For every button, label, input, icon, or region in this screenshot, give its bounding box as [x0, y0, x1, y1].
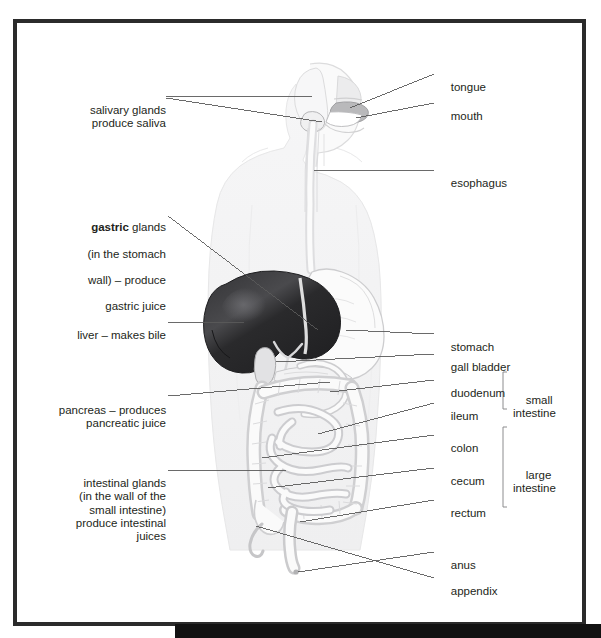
- label-anus-text: anus: [451, 559, 476, 571]
- label-intestinal-glands-text: intestinal glands (in the wall of the sm…: [76, 477, 166, 542]
- label-mouth: mouth: [438, 97, 483, 137]
- label-intestinal-glands: intestinal glands (in the wall of the sm…: [54, 464, 166, 556]
- diagram-page: salivary glands produce saliva gastric g…: [0, 0, 601, 638]
- bottom-black-band: [175, 624, 601, 638]
- label-esophagus-text: esophagus: [451, 177, 507, 189]
- label-esophagus: esophagus: [438, 164, 507, 204]
- label-small-intestine-group: small intestine: [513, 381, 556, 434]
- label-tongue-text: tongue: [451, 81, 486, 93]
- label-mouth-text: mouth: [451, 110, 483, 122]
- label-rectum-text: rectum: [451, 507, 486, 519]
- label-gall-bladder-text: gall bladder: [451, 361, 510, 373]
- label-ileum-text: ileum: [451, 410, 478, 422]
- label-liver-text: liver – makes bile: [77, 329, 166, 341]
- label-cecum-text: cecum: [451, 475, 485, 487]
- label-gastric-glands-rest: glands: [129, 221, 166, 233]
- label-gastric-glands: gastric glands (in the stomach wall) – p…: [68, 208, 166, 327]
- label-liver: liver – makes bile: [56, 316, 166, 356]
- label-pancreas: pancreas – produces pancreatic juice: [46, 391, 166, 444]
- label-large-intestine-text: large intestine: [513, 469, 556, 494]
- label-pancreas-text: pancreas – produces pancreatic juice: [59, 404, 166, 429]
- label-colon-text: colon: [451, 442, 479, 454]
- label-gastric-glands-line3: wall) – produce: [88, 274, 166, 286]
- label-rectum: rectum: [438, 494, 486, 534]
- label-gastric-glands-bold: gastric: [91, 221, 129, 233]
- label-small-intestine-text: small intestine: [513, 394, 556, 419]
- label-salivary-glands: salivary glands produce saliva: [75, 91, 166, 144]
- label-large-intestine-group: large intestine: [513, 456, 556, 509]
- label-appendix-text: appendix: [451, 585, 498, 597]
- label-gastric-glands-line4: gastric juice: [105, 300, 166, 312]
- label-appendix: appendix: [438, 572, 497, 612]
- label-salivary-glands-text: salivary glands produce saliva: [90, 104, 166, 129]
- label-gastric-glands-line2: (in the stomach: [87, 248, 166, 260]
